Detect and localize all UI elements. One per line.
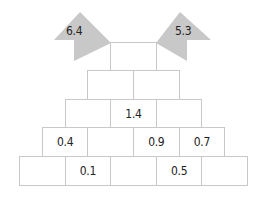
pyramid-cell bbox=[87, 127, 134, 157]
pyramid-cell: 0.9 bbox=[133, 127, 180, 157]
flag-label-right: 5.3 bbox=[175, 24, 191, 38]
pyramid-cell bbox=[19, 156, 66, 186]
pyramid-cell: 1.4 bbox=[110, 99, 157, 129]
flag-label-left: 6.4 bbox=[66, 24, 82, 38]
pyramid-cell bbox=[201, 156, 248, 186]
pyramid-cell bbox=[110, 42, 157, 72]
pyramid-cell bbox=[156, 99, 203, 129]
pyramid-cell bbox=[110, 156, 157, 186]
pyramid-cell bbox=[133, 70, 180, 100]
pyramid-cell: 0.5 bbox=[156, 156, 203, 186]
pyramid-cell: 0.7 bbox=[179, 127, 226, 157]
pyramid-cell bbox=[65, 99, 112, 129]
pyramid-cell: 0.1 bbox=[65, 156, 112, 186]
pyramid-cell bbox=[87, 70, 134, 100]
pyramid-cell: 0.4 bbox=[42, 127, 89, 157]
